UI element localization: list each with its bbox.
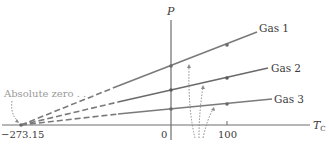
gas3-extrapolated	[21, 114, 118, 125]
y-axis-label: P	[166, 5, 175, 18]
tick-label-100: 100	[218, 129, 237, 140]
tick-label-neg: −273.15	[1, 129, 44, 140]
gas1-measured	[118, 32, 257, 86]
gas3-measured	[118, 99, 272, 114]
gas2-measured	[118, 68, 268, 102]
absolute-zero-point	[19, 123, 23, 127]
annotation-arrows	[12, 66, 213, 138]
gas1-label: Gas 1	[259, 22, 289, 34]
gas1-point-0	[169, 64, 173, 68]
x-axis-label: TC	[313, 119, 326, 133]
pressure-temperature-diagram: P TC −273.15 0 100 Gas 1 Gas 2 Gas 3 Abs…	[0, 0, 329, 144]
absolute-zero-annotation: Absolute zero . . .	[3, 88, 93, 99]
gas2-point-100	[225, 76, 229, 80]
gas2-label: Gas 2	[271, 62, 301, 74]
gas2-point-0	[169, 88, 173, 92]
gas3-point-100	[225, 102, 229, 106]
gas1-point-100	[225, 43, 229, 47]
gas3-label: Gas 3	[274, 93, 304, 105]
tick-label-zero: 0	[161, 129, 167, 140]
gas3-point-0	[169, 107, 173, 111]
gas2-extrapolated	[21, 102, 118, 125]
